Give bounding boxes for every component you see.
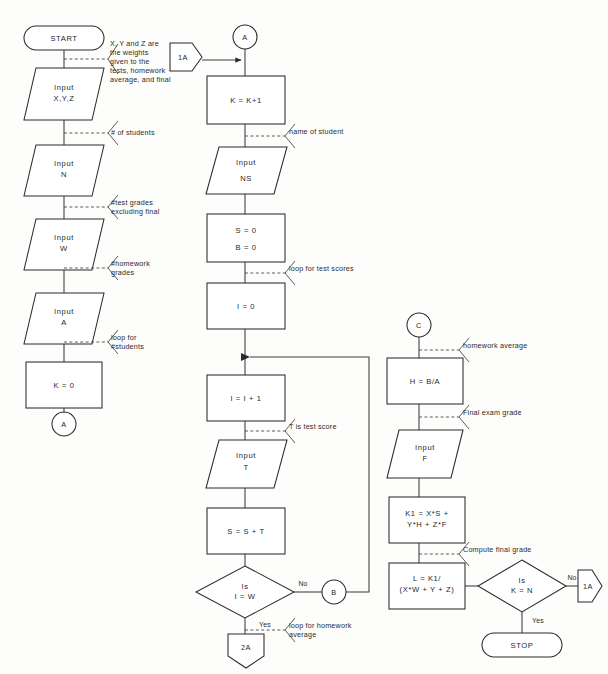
svg-text:Input: Input [54, 233, 74, 242]
svg-text:Final exam grade: Final exam grade [463, 408, 522, 417]
node-l-calculation[interactable]: L = K1/ (X*W + Y + Z) [389, 563, 465, 609]
node-h-average[interactable]: H = B/A [387, 358, 463, 404]
svg-text:Input: Input [54, 83, 74, 92]
svg-text:Input: Input [54, 159, 74, 168]
svg-text:B = 0: B = 0 [236, 243, 257, 252]
svg-text:I = I + 1: I = I + 1 [230, 394, 261, 403]
svg-text:X, Y and Z are: X, Y and Z are [110, 39, 159, 48]
node-input-f[interactable]: Input F [387, 430, 463, 478]
note-loop-test-scores: loop for test scores [245, 261, 354, 285]
svg-text:given to the: given to the [110, 57, 150, 66]
node-k-increment[interactable]: K = K+1 [207, 76, 285, 124]
svg-text:name of student: name of student [289, 127, 344, 136]
node-input-a[interactable]: Input A [24, 293, 104, 344]
node-input-xyz[interactable]: Input X,Y,Z [24, 68, 104, 120]
svg-text:#homework: #homework [111, 259, 150, 268]
decision-k-equals-n[interactable]: Is K = N [478, 560, 566, 612]
svg-text:tests, homework: tests, homework [110, 66, 166, 75]
svg-text:I = W: I = W [235, 592, 256, 601]
node-k1-calculation[interactable]: K1 = X*S + Y*H + Z*F [389, 497, 465, 543]
svg-text:Compute final grade: Compute final grade [463, 545, 532, 554]
svg-text:B: B [331, 588, 336, 597]
connector-a-out[interactable]: A [52, 412, 76, 436]
connector-c[interactable]: C [407, 313, 431, 337]
connector-1a-top[interactable]: 1A [170, 43, 202, 71]
svg-text:H = B/A: H = B/A [410, 377, 441, 386]
svg-text:Input: Input [54, 307, 74, 316]
svg-text:2A: 2A [241, 643, 251, 652]
node-s-b-zero[interactable]: S = 0 B = 0 [207, 214, 285, 262]
svg-text:loop for test scores: loop for test scores [289, 264, 354, 273]
svg-text:1A: 1A [583, 582, 593, 591]
note-final-exam-grade: Final exam grade [419, 405, 522, 429]
edge-label-yes-i-w: Yes [259, 621, 271, 628]
svg-text:#students: #students [111, 342, 144, 351]
svg-text:S = S + T: S = S + T [227, 527, 264, 536]
node-input-t[interactable]: Input T [206, 440, 287, 488]
decision-i-equals-w[interactable]: Is I = W [196, 566, 294, 618]
svg-text:excluding final: excluding final [111, 207, 160, 216]
svg-text:#test grades: #test grades [111, 198, 153, 207]
node-s-sum[interactable]: S = S + T [207, 508, 285, 554]
svg-text:average, and final: average, and final [110, 75, 171, 84]
note-t-is-test-score: T is test score [245, 419, 337, 443]
svg-text:Input: Input [236, 451, 256, 460]
svg-text:# of students: # of students [111, 128, 155, 137]
node-input-n[interactable]: Input N [24, 145, 104, 196]
note-num-students: # of students [64, 121, 155, 145]
note-test-grades: #test grades excluding final [64, 195, 160, 219]
node-input-ns[interactable]: Input NS [206, 147, 287, 194]
connector-1a-bottom[interactable]: 1A [578, 570, 602, 602]
svg-text:W: W [60, 244, 68, 253]
svg-text:N: N [61, 170, 67, 179]
node-start[interactable]: START [24, 26, 104, 50]
note-compute-final-grade: Compute final grade [419, 542, 532, 566]
flowchart-canvas: START X, Y and Z are the weights given t… [0, 0, 608, 674]
svg-text:A: A [61, 318, 67, 327]
edge-label-yes-k-n: Yes [532, 617, 544, 624]
svg-text:1A: 1A [178, 53, 188, 62]
svg-text:K = 0: K = 0 [54, 381, 75, 390]
svg-text:Input: Input [415, 443, 435, 452]
svg-text:Is: Is [241, 582, 248, 591]
edge-label-no-i-w: No [298, 580, 307, 587]
svg-text:Input: Input [236, 158, 256, 167]
node-stop-label: STOP [511, 641, 534, 650]
note-name-of-student: name of student [245, 124, 344, 148]
svg-text:K1 = X*S +: K1 = X*S + [405, 509, 449, 518]
node-stop[interactable]: STOP [482, 633, 562, 657]
svg-text:L = K1/: L = K1/ [413, 574, 441, 583]
connector-b[interactable]: B [322, 580, 346, 604]
node-i-increment[interactable]: I = I + 1 [207, 375, 285, 421]
svg-text:grades: grades [111, 268, 134, 277]
edge-label-no-k-n: No [567, 574, 576, 581]
svg-text:X,Y,Z: X,Y,Z [53, 94, 74, 103]
svg-text:loop for: loop for [111, 333, 137, 342]
svg-text:S = 0: S = 0 [236, 226, 257, 235]
svg-text:Y*H + Z*F: Y*H + Z*F [407, 520, 447, 529]
svg-text:Is: Is [518, 576, 525, 585]
svg-text:average: average [289, 630, 316, 639]
svg-text:K = N: K = N [511, 586, 533, 595]
svg-text:A: A [61, 420, 66, 429]
svg-text:T is test score: T is test score [289, 422, 337, 431]
svg-text:F: F [422, 454, 427, 463]
node-k-zero[interactable]: K = 0 [26, 362, 102, 408]
svg-text:C: C [416, 321, 422, 330]
svg-text:K = K+1: K = K+1 [230, 96, 262, 105]
connector-2a[interactable]: 2A [228, 634, 264, 668]
svg-text:A: A [242, 33, 247, 42]
svg-text:I = 0: I = 0 [237, 302, 255, 311]
svg-text:(X*W + Y + Z): (X*W + Y + Z) [400, 585, 455, 594]
svg-text:the weights: the weights [110, 48, 149, 57]
node-i-zero[interactable]: I = 0 [207, 283, 285, 329]
svg-text:loop for homework: loop for homework [289, 621, 352, 630]
connector-a-in[interactable]: A [233, 25, 257, 49]
svg-text:T: T [243, 463, 248, 472]
node-start-label: START [50, 34, 77, 43]
svg-text:homework average: homework average [463, 341, 527, 350]
node-input-w[interactable]: Input W [24, 219, 104, 270]
svg-text:NS: NS [240, 174, 252, 183]
flowchart-svg: START X, Y and Z are the weights given t… [0, 0, 608, 674]
